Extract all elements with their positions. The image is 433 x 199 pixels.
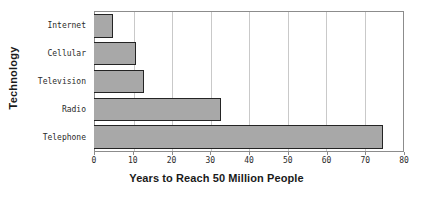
y-axis-tick-label: Cellular xyxy=(26,39,90,67)
bar-internet[interactable] xyxy=(94,14,113,37)
bar-television[interactable] xyxy=(94,70,144,93)
bar-cellular[interactable] xyxy=(94,42,136,65)
bar-band xyxy=(95,123,403,151)
x-axis-tick-labels: 01020304050607080 xyxy=(94,156,404,170)
x-axis-tick-label: 20 xyxy=(167,156,177,165)
y-axis-tick-label: Television xyxy=(26,67,90,95)
bar-band xyxy=(95,68,403,96)
x-axis-tick-label: 0 xyxy=(92,156,97,165)
x-axis-tick-label: 60 xyxy=(322,156,332,165)
bar-band xyxy=(95,40,403,68)
bar-band xyxy=(95,12,403,40)
x-axis-tick-label: 80 xyxy=(399,156,409,165)
plot-area xyxy=(94,11,404,152)
x-axis-tick-label: 50 xyxy=(283,156,293,165)
bar-telephone[interactable] xyxy=(94,125,383,148)
bar-radio[interactable] xyxy=(94,98,221,121)
y-axis-title: Technology xyxy=(0,0,26,155)
y-axis-tick-label: Internet xyxy=(26,11,90,39)
y-axis-tick-label: Telephone xyxy=(26,124,90,152)
x-axis-tick-label: 10 xyxy=(128,156,138,165)
x-axis-tick-label: 70 xyxy=(360,156,370,165)
x-axis-tick-mark xyxy=(288,152,289,155)
x-axis-tick-label: 40 xyxy=(244,156,254,165)
x-axis-tick-mark xyxy=(133,152,134,155)
x-axis-tick-mark xyxy=(365,152,366,155)
x-axis-tick-mark xyxy=(172,152,173,155)
y-axis-tick-labels: InternetCellularTelevisionRadioTelephone xyxy=(26,11,90,152)
x-axis-tick-mark xyxy=(327,152,328,155)
y-axis-title-label: Technology xyxy=(7,46,19,109)
bar-band xyxy=(95,95,403,123)
x-axis-tick-mark xyxy=(404,152,405,155)
x-axis-title: Years to Reach 50 Million People xyxy=(0,172,433,184)
bars-layer xyxy=(95,12,403,151)
x-axis-tick-mark xyxy=(249,152,250,155)
bar-chart: Technology InternetCellularTelevisionRad… xyxy=(0,0,433,199)
x-axis-tick-label: 30 xyxy=(205,156,215,165)
x-axis-tick-mark xyxy=(94,152,95,155)
x-axis-tick-mark xyxy=(210,152,211,155)
y-axis-tick-label: Radio xyxy=(26,96,90,124)
